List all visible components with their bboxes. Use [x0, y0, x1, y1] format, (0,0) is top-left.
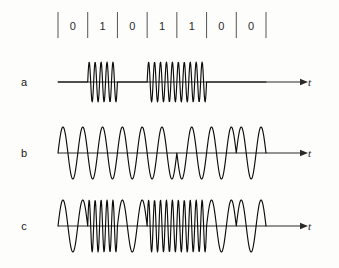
- bit-value: 0: [70, 20, 76, 32]
- axis-arrow-head-icon: [300, 223, 308, 229]
- row-a: at: [21, 62, 312, 102]
- waveform-rows: atbtct: [21, 62, 312, 252]
- axis-label-t: t: [308, 220, 312, 232]
- bit-value: 1: [100, 20, 106, 32]
- axis-label-t: t: [308, 147, 312, 159]
- bit-value: 0: [218, 20, 224, 32]
- row-c: ct: [21, 200, 312, 252]
- bit-value: 0: [129, 20, 135, 32]
- axis-label-t: t: [308, 76, 312, 88]
- row-b: bt: [21, 127, 312, 179]
- bit-labels: 0101100: [70, 20, 254, 32]
- row-label-b: b: [21, 147, 27, 159]
- row-label-a: a: [21, 76, 28, 88]
- bit-value: 1: [159, 20, 165, 32]
- axis-arrow-head-icon: [300, 150, 308, 156]
- modulation-figure: 0101100 atbtct: [0, 0, 339, 268]
- axis-arrow-head-icon: [300, 79, 308, 85]
- bit-value: 1: [189, 20, 195, 32]
- row-label-c: c: [21, 220, 27, 232]
- bit-value: 0: [248, 20, 254, 32]
